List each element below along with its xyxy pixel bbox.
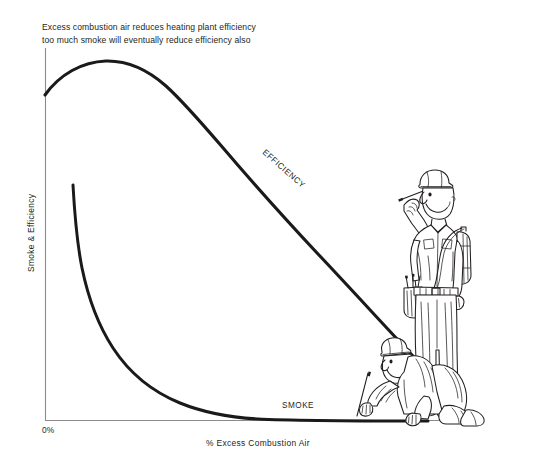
- y-axis-label: Smoke & Efficiency: [26, 193, 36, 272]
- standing-eye: [428, 192, 431, 196]
- origin-label: 0%: [42, 425, 55, 435]
- combustion-efficiency-chart: Excess combustion air reduces heating pl…: [0, 0, 538, 457]
- smoke-curve-label: SMOKE: [282, 401, 314, 410]
- standing-head: [422, 188, 454, 219]
- chart-page: Excess combustion air reduces heating pl…: [0, 0, 538, 457]
- crouching-right-hand: [406, 413, 421, 426]
- caption-line-1: Excess combustion air reduces heating pl…: [42, 22, 257, 32]
- caption-line-2: too much smoke will eventually reduce ef…: [42, 35, 251, 45]
- crouching-eye: [390, 360, 393, 364]
- x-axis-label: % Excess Combustion Air: [206, 438, 310, 448]
